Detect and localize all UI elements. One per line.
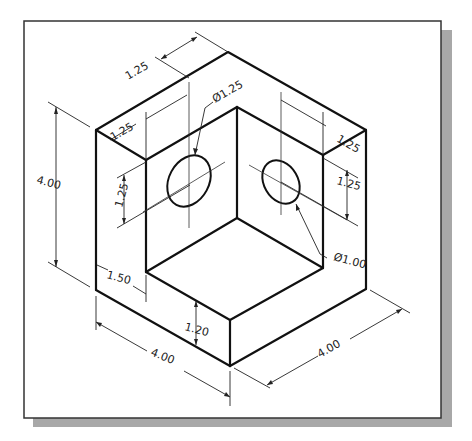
drawing-canvas: 1.25 1.25 Ø1.25 1.25 1.25 1.25 Ø1.00 4.0… (0, 0, 472, 441)
